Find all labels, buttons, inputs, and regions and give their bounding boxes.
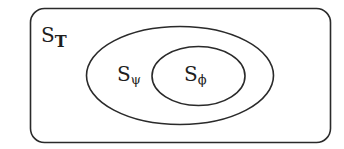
set-T-boundary [31,9,331,143]
venn-diagram: ST Sψ Sϕ [0,0,344,149]
set-phi-label: Sϕ [184,62,207,87]
set-T-label: ST [41,23,67,51]
set-psi-label: Sψ [117,62,141,87]
